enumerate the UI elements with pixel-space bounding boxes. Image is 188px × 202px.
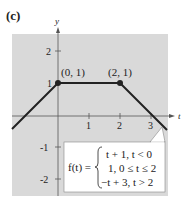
svg-text:2: 2 [117,120,122,131]
point-0-1 [55,80,61,86]
x-axis-arrow-icon [169,114,175,118]
point-2-1 [117,80,123,86]
svg-text:2: 2 [46,46,51,57]
case-1: t + 1, t < 0 [106,148,153,160]
svg-text:1: 1 [86,120,91,131]
annotation-lhs: f(t) = [68,161,91,174]
point-label-0-1: (0, 1) [61,66,85,79]
case-2: 1, 0 ≤ t ≤ 2 [108,162,156,174]
case-3: −t + 3, t > 2 [101,176,153,188]
panel-label: (c) [6,8,20,23]
x-axis-label: t [178,111,181,121]
svg-text:-2: -2 [40,174,48,185]
y-axis-arrow-icon [56,27,60,33]
svg-text:3: 3 [148,120,153,131]
point-label-2-1: (2, 1) [108,66,132,79]
svg-text:-1: -1 [40,142,48,153]
svg-text:1: 1 [47,78,52,89]
y-axis-label: y [54,16,59,26]
